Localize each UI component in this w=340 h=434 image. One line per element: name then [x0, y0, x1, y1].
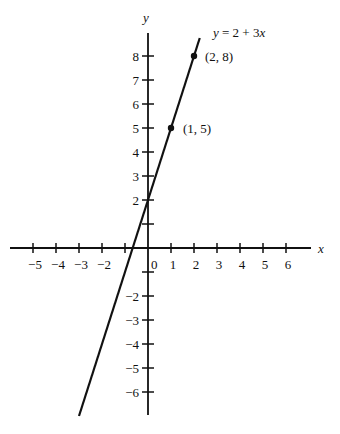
- axes: [10, 33, 311, 415]
- point-label-1-5: (1, 5): [183, 121, 211, 136]
- x-tick-label: −4: [51, 257, 65, 272]
- x-tick-label: 3: [216, 257, 223, 272]
- x-tick-label: 4: [239, 257, 246, 272]
- y-tick-label: −6: [125, 385, 139, 400]
- x-tick-label: −5: [28, 257, 42, 272]
- x-tick-label: 5: [262, 257, 269, 272]
- y-tick-label: −3: [125, 313, 139, 328]
- x-tick-label: 0: [151, 257, 158, 272]
- y-tick-label: 3: [133, 169, 140, 184]
- data-point: [168, 125, 174, 131]
- ticks: [33, 56, 286, 392]
- x-tick-label: 6: [285, 257, 292, 272]
- y-axis-label: y: [141, 10, 149, 25]
- y-tick-label: −4: [125, 337, 139, 352]
- y-tick-label: −5: [125, 361, 139, 376]
- equation-label: y = 2 + 3x: [211, 25, 265, 40]
- y-tick-label: −2: [125, 289, 139, 304]
- tick-labels: −5−4−3−201234568765432−2−3−4−5−6: [28, 49, 292, 400]
- x-tick-label: 1: [170, 257, 177, 272]
- y-tick-label: 4: [133, 145, 140, 160]
- y-tick-label: 7: [133, 73, 140, 88]
- y-tick-label: 2: [133, 193, 140, 208]
- point-label-2-8: (2, 8): [205, 49, 233, 64]
- y-tick-label: 5: [133, 121, 140, 136]
- y-tick-label: 6: [133, 97, 140, 112]
- x-axis-label: x: [317, 241, 324, 256]
- data-point: [191, 53, 197, 59]
- x-tick-label: −2: [97, 257, 111, 272]
- line-y-equals-2-plus-3x: [79, 38, 200, 416]
- x-tick-label: 2: [193, 257, 200, 272]
- y-tick-label: 8: [133, 49, 140, 64]
- line-chart: −5−4−3−201234568765432−2−3−4−5−6 x y y =…: [0, 0, 340, 434]
- x-tick-label: −3: [74, 257, 88, 272]
